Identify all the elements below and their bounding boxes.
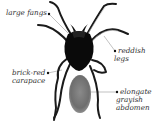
spider-diagram: large fangs reddish legs brick-red carap… <box>0 0 159 126</box>
spider-fangs <box>70 24 88 32</box>
label-large-fangs: large fangs <box>6 9 47 17</box>
label-elongate-grayish-abdomen: elongate grayish abdomen <box>120 88 152 112</box>
spider-abdomen <box>69 75 91 113</box>
label-brick-red-carapace: brick-red carapace <box>12 69 45 85</box>
label-reddish-legs: reddish legs <box>118 47 146 63</box>
